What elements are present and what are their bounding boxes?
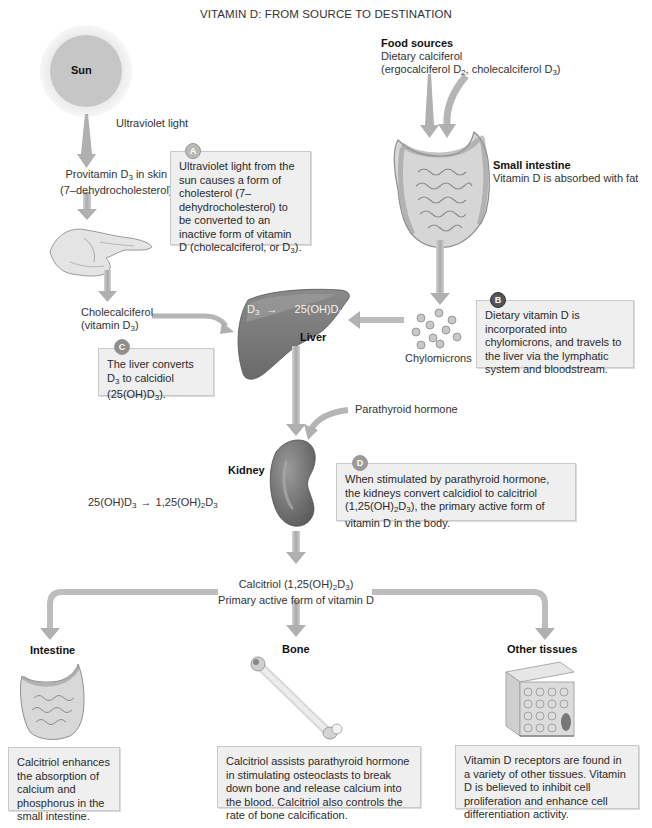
parathyroid-label: Parathyroid hormone: [355, 403, 458, 416]
uv-arrow: [77, 114, 96, 168]
badge-b: B: [490, 292, 506, 308]
provitamin-label: Provitamin D3 in skin (7–dehydrocholeste…: [60, 168, 173, 197]
kidney-reaction: 25(OH)D3 → 1,25(OH)2D3: [88, 496, 218, 512]
cholecalciferol-label: Cholecalciferol (vitamin D3): [81, 306, 153, 335]
sun-label: Sun: [71, 64, 92, 77]
note-b: Dietary vitamin D is incorporated into c…: [476, 300, 634, 368]
intestine-title: Intestine: [30, 644, 75, 657]
uv-label: Ultraviolet light: [116, 117, 188, 130]
hand-illustration: [50, 229, 152, 276]
bone-illustration: [251, 657, 342, 739]
chylomicrons-label: Chylomicrons: [405, 352, 472, 365]
arrow-liver-to-kidney: [286, 346, 306, 436]
bone-title: Bone: [282, 643, 310, 656]
other-tissues-title: Other tissues: [507, 643, 577, 656]
other-tissues-note: Vitamin D receptors are found in a varie…: [455, 745, 639, 809]
food-arrows: [420, 74, 466, 138]
kidney-label: Kidney: [228, 464, 265, 477]
arrow-parathyroid-to-kidney: [304, 410, 348, 440]
intestine-illustration: [20, 664, 84, 739]
arrow-cholecalciferol-to-liver: [152, 316, 234, 334]
badge-a: A: [185, 143, 201, 159]
note-c: The liver converts D3 to calcidiol (25(O…: [98, 348, 214, 396]
arrow-to-other-tissues: [372, 592, 555, 640]
arrow-chylomicrons-to-liver: [348, 311, 404, 329]
kidney-illustration: [270, 440, 315, 526]
arrow-intestine-to-chylomicrons: [430, 240, 450, 305]
chylomicron-dots: [412, 309, 461, 349]
tissue-illustration: [506, 662, 574, 736]
diagram-title: VITAMIN D: FROM SOURCE TO DESTINATION: [0, 8, 652, 20]
badge-c: C: [114, 339, 130, 355]
badge-d: D: [352, 455, 368, 471]
note-d: When stimulated by parathyroid hormone, …: [336, 463, 576, 521]
liver-reaction: D3 → 25(OH)D3: [247, 303, 343, 319]
bone-note: Calcitriol assists parathyroid hormone i…: [217, 746, 421, 808]
arrow-kidney-to-calcitriol: [286, 531, 306, 564]
food-sources-label: Food sources Dietary calciferol (ergocal…: [381, 37, 561, 79]
diagram-graphics: [0, 0, 652, 828]
small-intestine-label: Small intestine Vitamin D is absorbed wi…: [493, 159, 638, 185]
arrow-to-intestine: [40, 592, 218, 640]
note-a: Ultraviolet light from the sun causes a …: [170, 151, 311, 245]
intestine-note: Calcitriol enhances the absorption of ca…: [8, 747, 120, 811]
calcitriol-label: Calcitriol (1,25(OH)2D3) Primary active …: [216, 578, 376, 607]
small-intestine-illustration: [394, 132, 489, 247]
liver-label: Liver: [300, 331, 326, 344]
